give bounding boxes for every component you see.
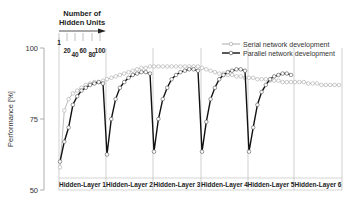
data-point: [93, 82, 97, 86]
data-point: [165, 86, 169, 90]
data-point: [192, 68, 196, 72]
legend-label-parallel: Parallel network development: [243, 50, 335, 58]
data-point: [209, 69, 213, 73]
data-point: [110, 117, 114, 121]
data-point: [302, 80, 306, 84]
data-point: [200, 66, 204, 70]
data-point: [260, 90, 264, 94]
data-point: [157, 117, 161, 121]
data-point: [118, 73, 122, 77]
data-point: [84, 86, 88, 90]
data-point: [289, 73, 293, 77]
data-point: [247, 150, 251, 154]
data-point: [131, 69, 135, 73]
data-point: [75, 89, 79, 93]
hidden-units-title-line1: Number of: [63, 9, 101, 18]
data-point: [157, 65, 161, 69]
panel-label-3: Hidden-Layer 3: [154, 181, 201, 189]
hidden-units-ticks: 120406080100: [57, 33, 106, 58]
arrow-head-icon: [98, 29, 106, 34]
data-point: [122, 72, 126, 76]
data-point: [315, 82, 319, 86]
data-point: [281, 80, 285, 84]
y-tick-label: 50: [30, 186, 38, 195]
hidden-units-tick-label: 100: [95, 47, 106, 54]
data-point: [127, 76, 131, 80]
legend: Serial network development Parallel netw…: [222, 41, 335, 58]
data-point: [174, 65, 178, 69]
data-point: [239, 75, 243, 79]
hidden-units-tick-label: 20: [63, 47, 71, 54]
data-point: [101, 82, 105, 86]
data-point: [161, 65, 165, 69]
data-point: [135, 68, 139, 72]
data-point: [183, 69, 187, 73]
data-point: [230, 73, 234, 77]
data-point: [235, 75, 239, 79]
data-point: [320, 83, 324, 87]
data-point: [251, 76, 255, 80]
data-point: [140, 70, 144, 74]
data-point: [337, 83, 341, 87]
data-point: [183, 65, 187, 69]
data-point: [179, 65, 183, 69]
data-point: [58, 165, 62, 169]
data-point: [114, 97, 118, 101]
data-point: [324, 83, 328, 87]
data-point: [293, 80, 297, 84]
data-point: [110, 76, 114, 80]
data-point: [328, 83, 332, 87]
data-point: [264, 77, 268, 81]
data-point: [152, 150, 156, 154]
data-point: [148, 72, 152, 76]
data-point: [226, 70, 230, 74]
data-series: [58, 65, 341, 169]
data-point: [260, 77, 264, 81]
data-point: [58, 160, 62, 164]
hidden-units-title-line2: Hidden Units: [59, 18, 105, 27]
data-point: [122, 80, 126, 84]
data-point: [217, 72, 221, 76]
data-point: [256, 103, 260, 107]
data-point: [179, 70, 183, 74]
data-point: [333, 83, 337, 87]
panel-label-2: Hidden-Layer 2: [106, 181, 153, 189]
data-point: [71, 92, 75, 96]
data-point: [97, 80, 101, 84]
panel-label-1: Hidden-Layer 1: [59, 181, 106, 189]
panel-label-6: Hidden-Layer 6: [295, 181, 342, 189]
data-point: [298, 80, 302, 84]
data-point: [131, 73, 135, 77]
y-tick-label: 100: [25, 44, 38, 53]
data-point: [144, 70, 148, 74]
data-point: [235, 68, 239, 72]
data-point: [161, 97, 165, 101]
hidden-units-tick-label: 40: [71, 51, 79, 58]
data-point: [213, 86, 217, 90]
panel-label-5: Hidden-Layer 5: [248, 181, 295, 189]
data-point: [140, 66, 144, 70]
y-ticks: 5075100: [25, 44, 44, 195]
data-point: [277, 79, 281, 83]
data-point: [277, 73, 281, 77]
data-point: [118, 86, 122, 90]
data-point: [67, 97, 71, 101]
data-point: [200, 150, 204, 154]
performance-chart: 5075100 Performance [%] Hidden-Layer 1Hi…: [0, 0, 363, 201]
data-point: [239, 68, 243, 72]
data-point: [187, 68, 191, 72]
data-point: [311, 82, 315, 86]
data-point: [306, 82, 310, 86]
data-point: [230, 69, 234, 73]
data-point: [152, 65, 156, 69]
data-point: [217, 77, 221, 81]
data-point: [205, 120, 209, 124]
data-point: [170, 65, 174, 69]
legend-label-serial: Serial network development: [243, 41, 329, 49]
data-point: [80, 89, 84, 93]
data-point: [268, 77, 272, 81]
data-point: [127, 70, 131, 74]
data-point: [251, 126, 255, 130]
series-parallel: [58, 68, 293, 164]
legend-item-serial: Serial network development: [222, 41, 329, 49]
